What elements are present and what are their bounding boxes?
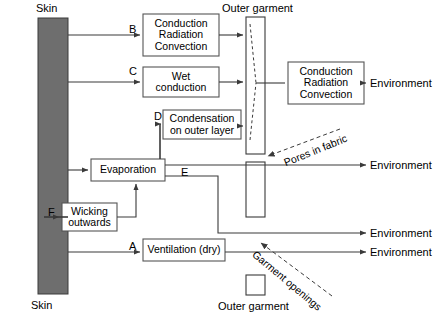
- box-line: conduction: [156, 82, 207, 94]
- path-tag-e: E: [181, 166, 188, 178]
- outer-garment-segment-bottom: [246, 275, 265, 295]
- box-label-condensation-on-outer-layer: Condensation on outer layer: [163, 110, 241, 139]
- box-line: Condensation: [170, 113, 235, 125]
- path-wicking-to-evaporation: [117, 184, 136, 217]
- box-line: Convection: [300, 89, 353, 101]
- box-line: outwards: [68, 217, 111, 229]
- box-line: on outer layer: [170, 125, 234, 137]
- outer-garment-label-bottom: Outer garment: [218, 300, 289, 312]
- box-line: Convection: [155, 41, 208, 53]
- heat-moisture-transfer-diagram: Skin Skin Outer garment Outer garment Co…: [0, 0, 436, 322]
- box-label-evaporation: Evaporation: [91, 159, 165, 181]
- skin-label-top: Skin: [36, 2, 57, 14]
- path-tag-a: A: [129, 240, 136, 252]
- outer-garment-segment-middle: [246, 162, 265, 217]
- outer-garment-segment-top: [246, 17, 265, 154]
- path-tag-f: F: [48, 206, 55, 218]
- skin-label-bottom: Skin: [31, 299, 52, 311]
- outer-garment-label-top: Outer garment: [222, 2, 293, 14]
- path-tag-c: C: [129, 65, 137, 77]
- box-label-ventilation-dry: Ventilation (dry): [143, 239, 225, 261]
- box-label-wicking-outwards: Wicking outwards: [62, 203, 117, 231]
- path-d-corner: [160, 124, 161, 159]
- box-label-wet-conduction: Wet conduction: [143, 67, 219, 97]
- path-tag-b: B: [129, 23, 136, 35]
- box-line: Ventilation (dry): [148, 244, 221, 256]
- box-label-conduction-radiation-convection-outer: Conduction Radiation Convection: [288, 62, 364, 104]
- skin-bar: [38, 18, 68, 294]
- environment-label-2: Environment: [370, 159, 432, 171]
- path-tag-d: D: [154, 110, 162, 122]
- box-label-conduction-radiation-convection-inner: Conduction Radiation Convection: [143, 14, 219, 56]
- environment-label-3: Environment: [370, 227, 432, 239]
- box-line: Evaporation: [100, 164, 156, 176]
- environment-label-1: Environment: [370, 77, 432, 89]
- environment-label-4: Environment: [370, 246, 432, 258]
